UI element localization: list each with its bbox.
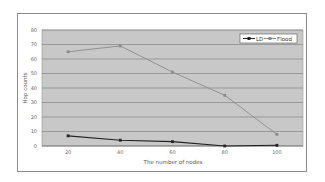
x-tick-label: 60	[169, 149, 175, 155]
x-tick-label: 40	[117, 149, 123, 155]
x-tick-label: 80	[222, 149, 228, 155]
y-tick-label: 40	[31, 85, 37, 91]
data-point-ld	[171, 140, 174, 143]
data-point-flood	[171, 71, 174, 74]
data-point-flood	[276, 133, 279, 136]
y-tick-label: 50	[31, 70, 37, 76]
data-point-ld	[119, 139, 122, 142]
y-tick-label: 0	[34, 143, 37, 149]
x-axis-ticks: 20406080100	[65, 149, 282, 155]
legend: LD Flood	[240, 34, 297, 43]
y-axis-label: Hop counts	[22, 72, 29, 103]
data-point-ld	[67, 134, 70, 137]
x-axis-label: The number of nodes	[143, 159, 203, 165]
y-tick-label: 30	[31, 99, 37, 105]
x-tick-label: 100	[272, 149, 282, 155]
data-point-flood	[119, 45, 122, 48]
x-tick-label: 20	[65, 149, 71, 155]
y-tick-label: 60	[31, 56, 37, 62]
data-point-flood	[67, 50, 70, 53]
y-tick-label: 80	[31, 27, 37, 33]
y-tick-label: 10	[31, 128, 37, 134]
legend-ld-marker-icon	[248, 37, 251, 40]
legend-flood-marker-icon	[269, 37, 272, 40]
data-point-flood	[223, 94, 226, 97]
y-tick-label: 70	[31, 41, 37, 47]
y-axis-ticks: 01020304050607080	[31, 27, 37, 149]
legend-flood-label: Flood	[277, 36, 292, 42]
legend-ld-label: LD	[256, 36, 263, 42]
data-point-ld	[223, 145, 226, 148]
line-chart: 01020304050607080 20406080100 The number…	[0, 0, 325, 182]
data-point-ld	[276, 144, 279, 147]
y-tick-label: 20	[31, 114, 37, 120]
